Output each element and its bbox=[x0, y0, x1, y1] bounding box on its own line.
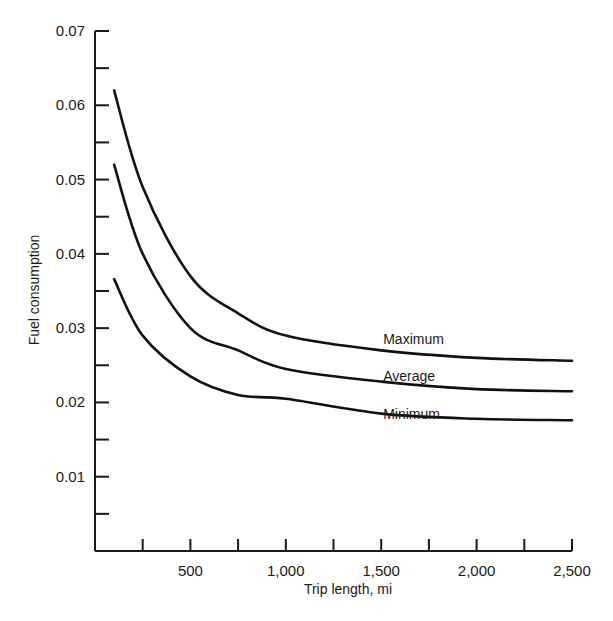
y-tick-label: 0.03 bbox=[56, 319, 85, 336]
x-axis: 5001,0001,5002,0002,500 bbox=[95, 539, 591, 579]
x-tick-label: 1,500 bbox=[362, 562, 400, 579]
series-label-minimum: Minimum bbox=[383, 406, 440, 422]
series-label-average: Average bbox=[383, 368, 435, 384]
curves bbox=[114, 90, 572, 420]
y-axis: 0.010.020.030.040.050.060.07 bbox=[56, 22, 109, 551]
x-tick-label: 500 bbox=[178, 562, 203, 579]
y-tick-label: 0.04 bbox=[56, 245, 85, 262]
curve-average bbox=[114, 165, 572, 392]
y-tick-label: 0.06 bbox=[56, 96, 85, 113]
series-label-maximum: Maximum bbox=[383, 331, 444, 347]
x-tick-label: 2,000 bbox=[458, 562, 496, 579]
y-tick-label: 0.05 bbox=[56, 171, 85, 188]
y-tick-label: 0.02 bbox=[56, 393, 85, 410]
fuel-consumption-chart: 0.010.020.030.040.050.060.07 5001,0001,5… bbox=[0, 0, 613, 621]
y-axis-title: Fuel consumption bbox=[26, 235, 42, 346]
x-tick-label: 1,000 bbox=[267, 562, 305, 579]
y-tick-label: 0.01 bbox=[56, 468, 85, 485]
curve-minimum bbox=[114, 279, 572, 420]
x-tick-label: 2,500 bbox=[553, 562, 591, 579]
series-labels: MaximumAverageMinimum bbox=[383, 331, 444, 421]
x-axis-title: Trip length, mi bbox=[304, 581, 392, 597]
y-tick-label: 0.07 bbox=[56, 22, 85, 39]
